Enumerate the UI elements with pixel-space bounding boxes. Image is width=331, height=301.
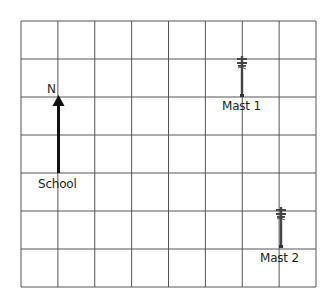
mast-2-label: Mast 2: [260, 252, 299, 264]
school-label: School: [38, 178, 77, 190]
north-label: N: [47, 83, 56, 95]
grid-map: N School Mast 1 Mast 2: [0, 0, 331, 301]
mast-1-label: Mast 1: [222, 100, 261, 112]
